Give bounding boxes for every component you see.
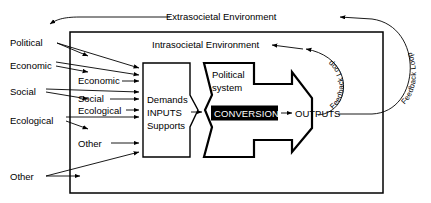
- outer-input-label-other: Other: [10, 171, 34, 182]
- outer-feedback-loop-label: Feedback Loop: [399, 51, 418, 106]
- arrow-economic-outer-a: [56, 66, 88, 72]
- arrow-political-a: [57, 43, 88, 56]
- inputs-box-line-supports: Supports: [147, 120, 185, 131]
- outer-input-label-economic: Economic: [10, 60, 52, 71]
- extrasocietal-environment-label: Extrasocietal Environment: [166, 11, 277, 22]
- diagram-canvas: Feedback Loop Feedback Loop Extrasocieta…: [0, 0, 431, 203]
- outer-input-label-social: Social: [10, 86, 36, 97]
- arrow-other-outer-b: [46, 152, 139, 176]
- intrasocietal-environment-label: Intrasocietal Environment: [152, 39, 260, 50]
- outer-feedback-arrow-to-extrasocietal: [340, 17, 372, 19]
- inner-feedback-arrow-to-intrasocietal: [272, 45, 303, 49]
- inner-input-label-ecological: Ecological: [78, 105, 121, 116]
- outer-input-label-political: Political: [10, 37, 43, 48]
- outer-input-label-ecological: Ecological: [10, 115, 53, 126]
- extrasocietal-left-tail: [50, 17, 170, 24]
- arrow-social-outer-b: [46, 89, 139, 92]
- inner-input-label-other: Other: [78, 138, 102, 149]
- conversion-label: CONVERSION: [214, 108, 279, 119]
- inputs-box-line-demands: Demands: [147, 94, 188, 105]
- inner-input-label-economic: Economic: [78, 75, 120, 86]
- inner-input-label-social: Social: [78, 93, 104, 104]
- outputs-label: OUTPUTS: [295, 108, 340, 119]
- inputs-box-line-inputs: INPUTS: [147, 107, 182, 118]
- political-system-line2: system: [212, 82, 242, 93]
- political-system-line1: Political: [212, 69, 245, 80]
- inner-feedback-loop-label: Feedback Loop: [326, 59, 345, 111]
- political-system-diagram: Feedback Loop Feedback Loop Extrasocieta…: [0, 0, 431, 203]
